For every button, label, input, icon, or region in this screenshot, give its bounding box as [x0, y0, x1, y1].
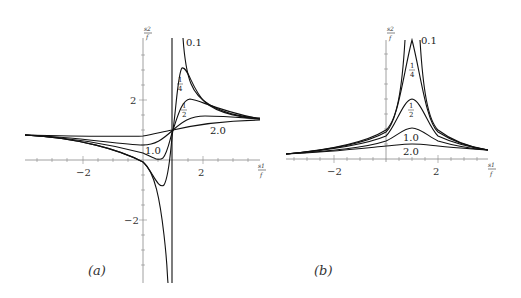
- svg-text:2: 2: [182, 111, 186, 119]
- curve-label-2.0-a: 2.0: [210, 125, 226, 136]
- svg-text:f: f: [259, 171, 264, 179]
- svg-text:f: f: [388, 34, 393, 42]
- curve-label-0.1-a: 0.1: [186, 37, 202, 48]
- svg-text:1: 1: [182, 102, 186, 110]
- curve-0.1-lower-a: [25, 135, 168, 283]
- curve-label-1-4-b: 1 4: [409, 62, 415, 79]
- svg-text:2: 2: [409, 111, 413, 119]
- curve-label-1-4-a: 1 4: [177, 76, 183, 93]
- x-axis-label-b: s1 f: [488, 161, 496, 178]
- curve-label-1.0-a: 1.0: [145, 145, 161, 156]
- x-axis-label-a: s1 f: [258, 162, 266, 179]
- curve-0.1-b-right: [420, 40, 488, 150]
- y-axis-label-b: s2 f: [387, 25, 395, 42]
- curve-0.1-b: [286, 40, 405, 154]
- figure: −2 2 2 −2 s2 f s1 f: [0, 0, 521, 298]
- curve-0.1-upper-a: [183, 38, 260, 118]
- panel-label-b: (b): [314, 263, 332, 278]
- curve-label-1.0-b: 1.0: [403, 132, 419, 143]
- curves-a: [25, 38, 260, 283]
- curve-label-1-2-a: 1 2: [181, 102, 187, 119]
- svg-text:4: 4: [410, 71, 415, 79]
- svg-text:f: f: [145, 33, 150, 41]
- y-tick-label-2-a: 2: [130, 95, 136, 106]
- x-tick-label-neg2-b: −2: [327, 166, 342, 177]
- curve-label-0.1-b: 0.1: [421, 35, 437, 46]
- curve-label-1-2-b: 1 2: [408, 102, 414, 119]
- svg-text:1: 1: [410, 62, 414, 70]
- svg-text:s2: s2: [387, 25, 394, 32]
- panel-b: −2 2 s2 f s1 f 0.1 1 4: [286, 25, 496, 278]
- panel-a: −2 2 2 −2 s2 f s1 f: [25, 25, 266, 283]
- y-axis-label-a: s2 f: [144, 25, 152, 41]
- svg-text:f: f: [489, 170, 494, 178]
- y-tick-label-neg2-a: −2: [124, 215, 139, 226]
- curves-b: [286, 40, 488, 154]
- x-tick-label-2-b: 2: [433, 166, 439, 177]
- x-tick-label-neg2-a: −2: [76, 167, 91, 178]
- svg-text:1: 1: [409, 102, 413, 110]
- curve-1-4-b: [286, 40, 488, 154]
- svg-text:4: 4: [178, 85, 183, 93]
- curve-label-2.0-b: 2.0: [403, 146, 419, 157]
- x-tick-label-2-a: 2: [198, 167, 204, 178]
- svg-text:s1: s1: [258, 162, 265, 169]
- svg-text:s1: s1: [488, 161, 495, 168]
- svg-text:s2: s2: [144, 25, 151, 32]
- svg-text:1: 1: [178, 76, 182, 84]
- panel-label-a: (a): [88, 263, 106, 278]
